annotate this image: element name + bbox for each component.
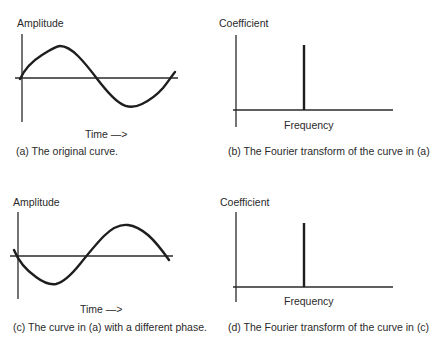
panel-a-x-label: Time —> xyxy=(85,128,128,140)
panel-d: Coefficient Frequency (d) The Fourier tr… xyxy=(220,196,429,333)
panel-d-caption: (d) The Fourier transform of the curve i… xyxy=(228,321,429,333)
panel-d-y-label: Coefficient xyxy=(220,196,270,208)
panel-a: Amplitude Time —> (a) The original curve… xyxy=(15,17,178,157)
panel-c-x-label: Time —> xyxy=(80,303,123,315)
panel-c-shifted-curve xyxy=(14,225,169,284)
panel-b-y-label: Coefficient xyxy=(219,17,269,29)
panel-d-x-label: Frequency xyxy=(284,295,334,307)
panel-c: Amplitude Time —> (c) The curve in (a) w… xyxy=(10,196,207,333)
panel-a-caption: (a) The original curve. xyxy=(16,145,118,157)
panel-b-x-label: Frequency xyxy=(284,119,334,131)
fourier-phase-figure: Amplitude Time —> (a) The original curve… xyxy=(0,0,433,345)
panel-a-y-label: Amplitude xyxy=(17,17,64,29)
panel-b: Coefficient Frequency (b) The Fourier tr… xyxy=(219,17,430,157)
panel-b-caption: (b) The Fourier transform of the curve i… xyxy=(228,145,430,157)
panel-c-y-label: Amplitude xyxy=(13,196,60,208)
panel-a-sine-curve xyxy=(20,46,175,107)
panel-c-caption: (c) The curve in (a) with a different ph… xyxy=(13,321,207,333)
